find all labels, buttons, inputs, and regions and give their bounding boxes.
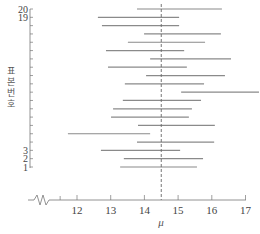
x-axis: 121314151617	[28, 195, 252, 216]
x-tick-label: 14	[139, 204, 151, 216]
y-tick-label: 20	[18, 4, 28, 15]
x-axis-label: μ	[157, 216, 164, 228]
y-axis-label: 표본번호	[4, 66, 18, 110]
x-tick-label: 13	[105, 204, 117, 216]
y-axis: 1231920	[18, 4, 33, 173]
x-tick-label: 12	[72, 204, 83, 216]
interval-lines	[68, 9, 259, 167]
x-tick-label: 16	[206, 204, 218, 216]
x-tick-label: 17	[240, 204, 252, 216]
x-tick-label: 15	[173, 204, 185, 216]
confidence-interval-chart: 1231920 121314151617 μ	[0, 0, 260, 234]
y-tick-label: 3	[23, 145, 28, 156]
